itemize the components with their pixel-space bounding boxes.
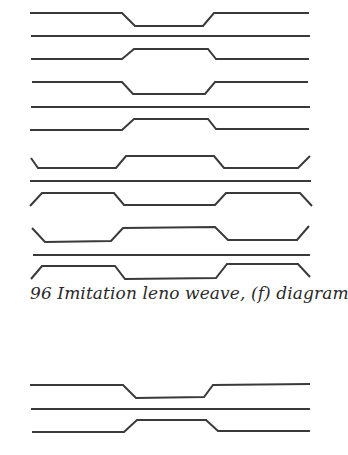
thread-line xyxy=(32,420,310,432)
thread-line xyxy=(30,384,310,398)
thread-line xyxy=(30,13,309,26)
thread-line xyxy=(30,193,312,206)
thread-line xyxy=(31,49,309,59)
diagram-top-group xyxy=(30,13,310,130)
thread-line xyxy=(31,264,310,279)
leno-weave-diagram xyxy=(0,0,348,455)
thread-line xyxy=(32,82,308,94)
diagram-middle-group xyxy=(30,156,312,279)
thread-line xyxy=(32,226,309,242)
thread-line xyxy=(31,156,310,168)
diagram-bottom-group xyxy=(30,384,310,432)
figure-caption: 96 Imitation leno weave, (f) diagram 87 xyxy=(30,283,340,303)
thread-line xyxy=(30,119,309,130)
